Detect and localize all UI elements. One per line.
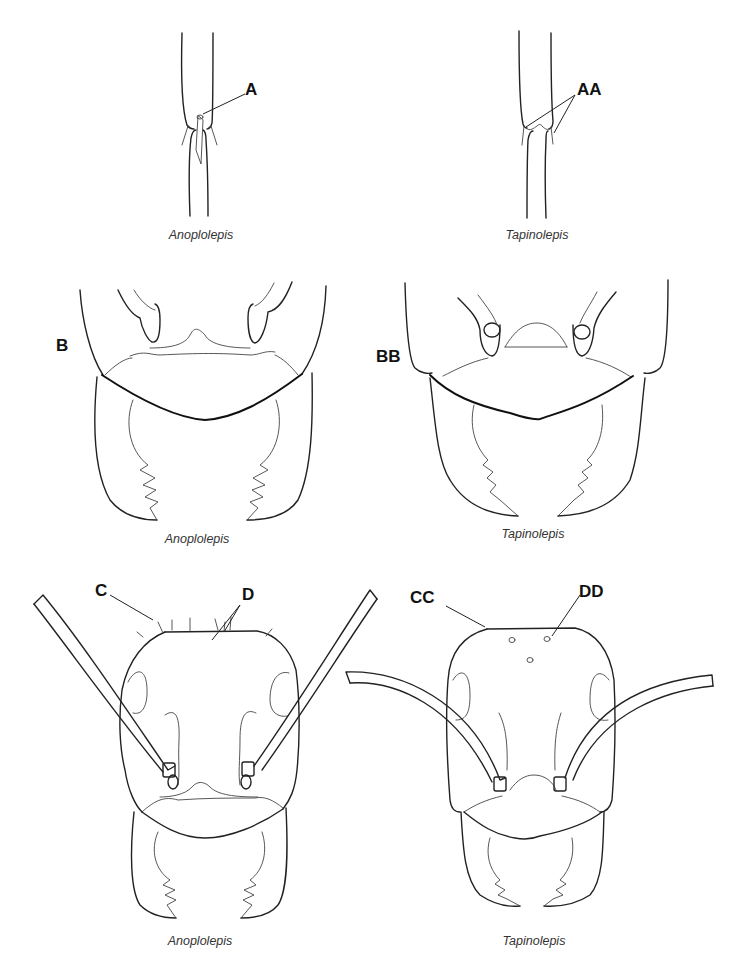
caption-row2-left: Anoplolepis [165,532,230,546]
anoplolepis-clypeus-drawing [80,282,326,520]
tapinolepis-head-drawing [346,595,713,906]
label-B: B [56,336,68,356]
clipped-top-text [0,0,300,6]
anoplolepis-petiole-drawing [182,33,245,216]
label-AA: AA [577,80,602,100]
tapinolepis-clypeus-drawing [405,280,668,516]
label-D: D [242,585,254,605]
caption-row3-left: Anoplolepis [168,934,233,948]
label-C: C [95,581,107,601]
diagram-canvas [0,0,748,972]
label-DD: DD [579,582,604,602]
caption-row1-left: Anoplolepis [169,228,234,242]
caption-row2-right: Tapinolepis [502,527,565,541]
label-BB: BB [376,347,401,367]
label-CC: CC [410,588,435,608]
caption-row1-right: Tapinolepis [506,228,569,242]
label-A: A [245,80,257,100]
tapinolepis-petiole-drawing [519,31,575,218]
caption-row3-right: Tapinolepis [503,934,566,948]
anoplolepis-head-drawing [34,590,377,918]
